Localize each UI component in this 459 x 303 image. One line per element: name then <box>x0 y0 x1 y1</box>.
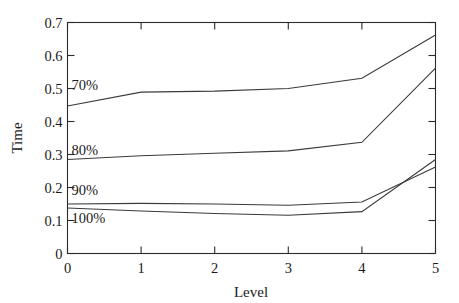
axis-ticks <box>68 23 436 254</box>
x-tick-label: 4 <box>358 260 366 276</box>
data-series <box>68 35 436 215</box>
series-label-100pct: 100% <box>72 210 106 226</box>
series-line-90pct <box>68 167 436 205</box>
x-tick-label: 2 <box>211 260 218 276</box>
y-tick-label: 0.4 <box>44 114 63 130</box>
line-chart: 00.10.20.30.40.50.60.7012345 70%80%90%10… <box>0 0 459 303</box>
y-tick-label: 0.2 <box>44 180 62 196</box>
y-tick-label: 0 <box>55 246 62 262</box>
axes <box>68 23 436 254</box>
x-tick-label: 1 <box>137 260 144 276</box>
series-label-90pct: 90% <box>72 182 99 198</box>
y-tick-label: 0.5 <box>44 81 62 97</box>
series-line-100pct <box>68 159 436 215</box>
y-axis-title: Time <box>9 122 25 153</box>
y-tick-label: 0.3 <box>44 147 62 163</box>
series-line-70pct <box>68 35 436 106</box>
x-tick-label: 5 <box>432 260 439 276</box>
chart-figure: 00.10.20.30.40.50.60.7012345 70%80%90%10… <box>0 0 459 303</box>
y-tick-label: 0.1 <box>44 213 62 229</box>
axis-tick-labels: 00.10.20.30.40.50.60.7012345 <box>44 15 439 276</box>
y-tick-label: 0.7 <box>44 15 62 31</box>
y-tick-label: 0.6 <box>44 48 62 64</box>
x-axis-title: Level <box>234 284 268 300</box>
x-tick-label: 3 <box>285 260 292 276</box>
series-line-80pct <box>68 68 436 159</box>
x-tick-label: 0 <box>64 260 71 276</box>
series-label-80pct: 80% <box>72 142 99 158</box>
series-label-70pct: 70% <box>72 77 99 93</box>
